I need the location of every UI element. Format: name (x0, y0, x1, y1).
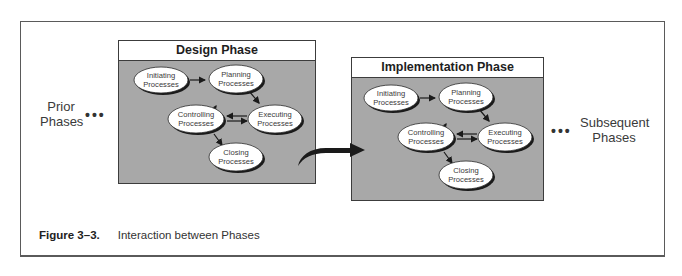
figure-caption: Figure 3–3.Interaction between Phases (39, 229, 260, 241)
figure-title: Interaction between Phases (118, 229, 260, 241)
figure-number: Figure 3–3. (39, 229, 100, 241)
